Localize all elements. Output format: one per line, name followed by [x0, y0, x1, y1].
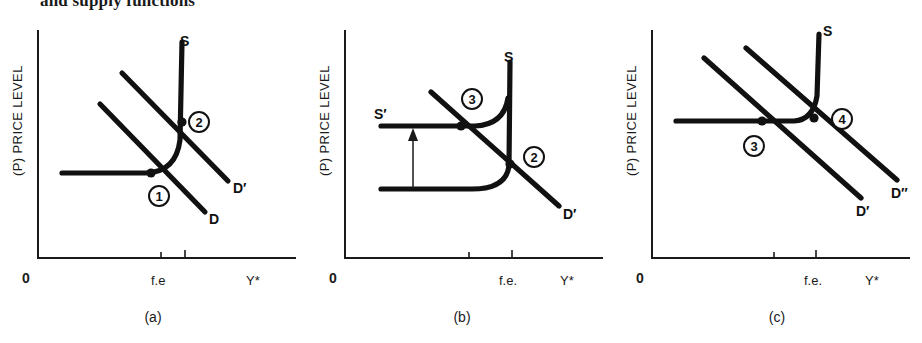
marker-label-2: 2	[195, 115, 202, 130]
panel-caption-c: (c)	[769, 309, 785, 325]
figure-root: and supply functions S D D′	[0, 0, 922, 343]
shift-annotation-b	[408, 128, 418, 189]
panel-c: S D′ D″ 3 4 (P) PRICE LEVEL 0 f.e. Y* (c…	[614, 0, 921, 343]
axis-labels-c: (P) PRICE LEVEL 0 f.e. Y* (c)	[624, 65, 879, 325]
x-tick-label-fe: f.e.	[499, 273, 517, 288]
x-tick-label-fe: f.e	[151, 273, 165, 288]
equilibrium-dot-3	[757, 116, 766, 125]
panel-caption-a: (a)	[144, 309, 161, 325]
origin-label: 0	[22, 270, 30, 286]
marker-label-3: 3	[750, 139, 757, 154]
x-axis-label: Y*	[560, 273, 574, 288]
equilibrium-markers-c: 3 4	[744, 109, 852, 156]
equilibrium-dot-2	[505, 159, 514, 168]
label-s-prime: S′	[374, 106, 387, 122]
x-axis-label: Y*	[246, 273, 260, 288]
label-d-prime: D′	[233, 180, 247, 196]
axes-a	[38, 30, 296, 258]
label-s: S	[823, 23, 832, 39]
y-axis-label: (P) PRICE LEVEL	[624, 65, 639, 176]
axes-c	[652, 30, 910, 258]
equilibrium-dot-2	[177, 117, 186, 126]
origin-label: 0	[329, 270, 337, 286]
axis-lines	[345, 30, 603, 258]
label-d-prime: D′	[856, 203, 870, 219]
demand-curve-d-prime	[122, 73, 228, 181]
label-d-prime: D′	[563, 206, 577, 222]
label-s: S	[180, 33, 189, 49]
marker-label-3: 3	[468, 92, 475, 107]
y-axis-label: (P) PRICE LEVEL	[317, 65, 332, 176]
y-axis-label: (P) PRICE LEVEL	[10, 65, 25, 176]
axis-labels-a: (P) PRICE LEVEL 0 f.e Y* (a)	[10, 65, 260, 325]
x-axis-label: Y*	[865, 273, 879, 288]
marker-label-4: 4	[838, 112, 846, 127]
marker-label-1: 1	[155, 189, 162, 204]
axis-lines	[652, 30, 910, 258]
curves-b	[381, 62, 559, 206]
equilibrium-dot-4	[809, 113, 818, 122]
label-s: S	[504, 49, 513, 65]
panel-b: S′ S D′ 3 2 (P) PRICE LEVEL 0 f.e. Y* (b…	[307, 0, 614, 343]
origin-label: 0	[636, 270, 644, 286]
label-d-double-prime: D″	[891, 185, 908, 201]
panel-a: S D D′ 1 2 (P) PRICE LEVEL 0 f.e Y* (a)	[0, 0, 307, 343]
shift-arrow-head	[408, 128, 418, 141]
equilibrium-dot-1	[146, 168, 155, 177]
marker-label-2: 2	[530, 150, 537, 165]
label-d: D	[209, 211, 219, 227]
equilibrium-dot-3	[456, 121, 465, 130]
axis-lines	[38, 30, 296, 258]
supply-curve-s	[62, 42, 182, 173]
panel-caption-b: (b)	[453, 309, 470, 325]
axes-b	[345, 30, 603, 258]
x-tick-label-fe: f.e.	[804, 273, 822, 288]
curves-c	[676, 34, 897, 198]
